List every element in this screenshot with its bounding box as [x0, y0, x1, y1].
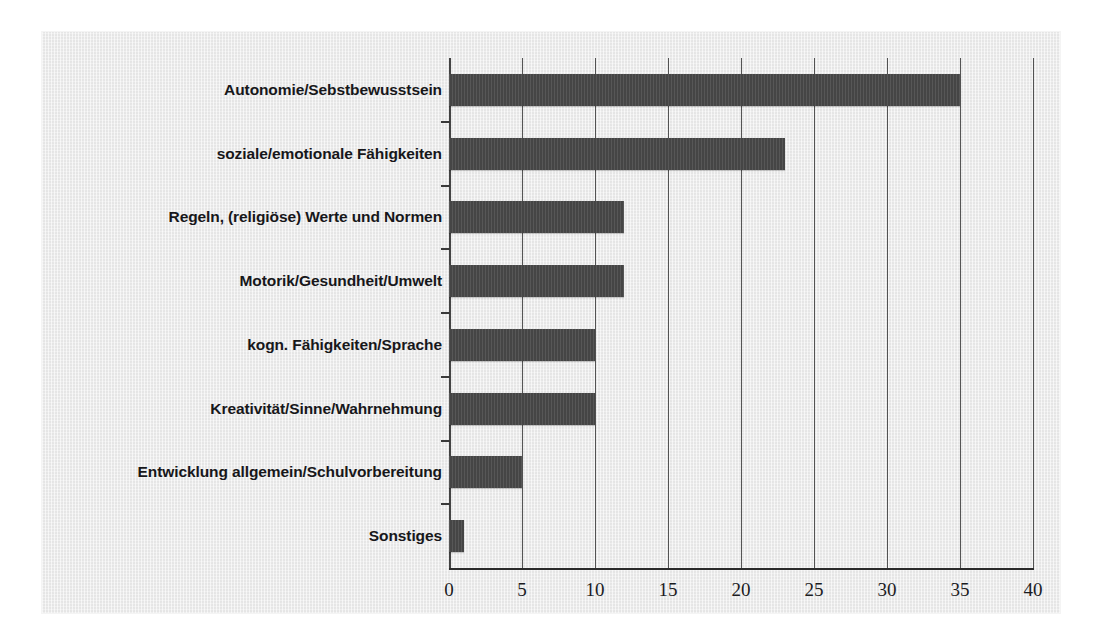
category-label: Autonomie/Sebstbewusstsein: [224, 81, 442, 99]
x-tick-label-15: 15: [638, 579, 698, 601]
y-axis-tick: [441, 503, 450, 505]
x-tick-label-40: 40: [1003, 579, 1063, 601]
bar: [449, 201, 624, 233]
y-axis-tick: [441, 376, 450, 378]
x-tick-label-25: 25: [784, 579, 844, 601]
category-label: kogn. Fähigkeiten/Sprache: [247, 336, 442, 354]
gridline-10: [595, 58, 596, 568]
bar: [449, 393, 595, 425]
category-label: Motorik/Gesundheit/Umwelt: [240, 272, 442, 290]
category-label: Regeln, (religiöse) Werte und Normen: [169, 208, 442, 226]
gridline-35: [960, 58, 961, 568]
bar: [449, 520, 464, 552]
category-label: soziale/emotionale Fähigkeiten: [217, 145, 442, 163]
chart-screenshot: Autonomie/Sebstbewusstseinsoziale/emotio…: [0, 0, 1098, 633]
x-tick-label-35: 35: [930, 579, 990, 601]
chart-panel: Autonomie/Sebstbewusstseinsoziale/emotio…: [42, 32, 1060, 613]
bar: [449, 74, 960, 106]
bar: [449, 329, 595, 361]
bar: [449, 138, 785, 170]
gridline-15: [668, 58, 669, 568]
y-axis-tick: [441, 248, 450, 250]
y-axis-tick: [441, 185, 450, 187]
x-tick-label-30: 30: [857, 579, 917, 601]
x-tick-label-20: 20: [711, 579, 771, 601]
gridline-20: [741, 58, 742, 568]
y-axis-tick: [441, 440, 450, 442]
bar: [449, 456, 522, 488]
x-tick-label-5: 5: [492, 579, 552, 601]
category-label: Sonstiges: [369, 527, 442, 545]
x-axis-line: [449, 568, 1034, 570]
gridline-40: [1033, 58, 1034, 568]
y-axis-tick: [441, 121, 450, 123]
category-label: Entwicklung allgemein/Schulvorbereitung: [138, 463, 442, 481]
y-axis-tick: [441, 312, 450, 314]
category-label: Kreativität/Sinne/Wahrnehmung: [210, 400, 442, 418]
plot-area: [449, 58, 1033, 568]
gridline-25: [814, 58, 815, 568]
bar: [449, 265, 624, 297]
category-axis-labels: Autonomie/Sebstbewusstseinsoziale/emotio…: [62, 32, 442, 613]
x-tick-label-0: 0: [419, 579, 479, 601]
x-tick-label-10: 10: [565, 579, 625, 601]
gridline-5: [522, 58, 523, 568]
gridline-30: [887, 58, 888, 568]
